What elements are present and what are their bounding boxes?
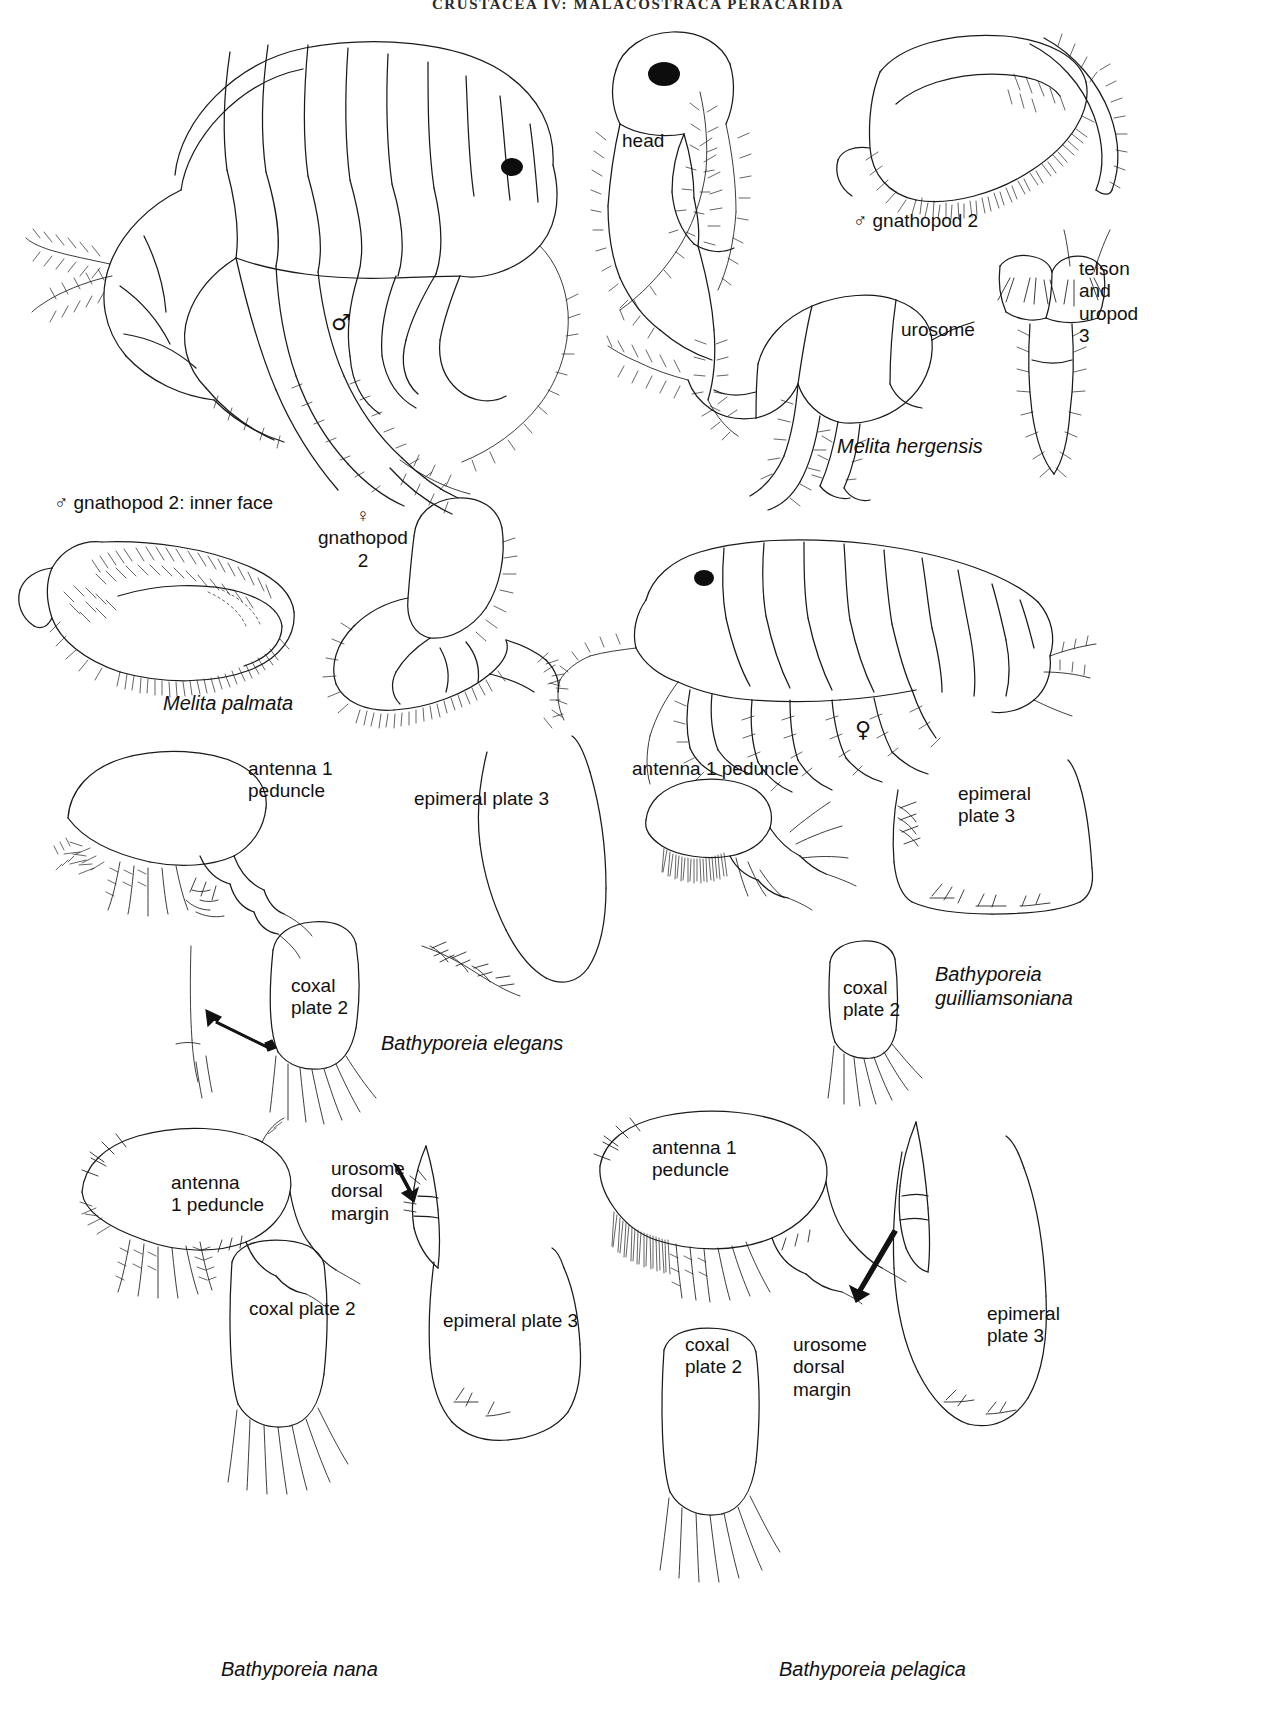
label-epimeral-plate-3-elegans: epimeral plate 3 xyxy=(414,788,549,810)
label-antenna-1-peduncle-elegans: antenna 1 peduncle xyxy=(248,758,333,803)
label-epimeral-plate-3-pelagica: epimeral plate 3 xyxy=(987,1303,1060,1348)
label-male-gnathopod-2: ♂ gnathopod 2 xyxy=(853,210,978,232)
label-antenna-1-peduncle-guilliamsoniana: antenna 1 peduncle xyxy=(632,758,799,780)
figure-pelagica-epimeral-plate-3 xyxy=(893,1136,1046,1426)
label-female-gnathopod-2: ♀ gnathopod 2 xyxy=(318,505,408,572)
plate-line-art xyxy=(0,0,1276,1709)
species-bathyporeia-elegans: Bathyporeia elegans xyxy=(381,1032,563,1056)
arrow-pelagica xyxy=(850,1230,897,1302)
figure-nana-coxal-plate-2 xyxy=(228,1240,348,1494)
label-male-gnathopod-2-inner-face: ♂ gnathopod 2: inner face xyxy=(54,492,273,514)
figure-pelagica-urosome-dorsal-margin xyxy=(850,1122,930,1302)
species-melita-palmata: Melita palmata xyxy=(163,692,293,716)
figure-melita-palmata-gnathopod-inner xyxy=(19,542,294,697)
figure-male-gnathopod-2 xyxy=(837,34,1127,219)
label-coxal-plate-2-guilliamsoniana: coxal plate 2 xyxy=(843,977,900,1022)
figure-nana-epimeral-plate-3 xyxy=(429,1248,580,1440)
illustration-plate: CRUSTACEA IV: MALACOSTRACA PERACARIDA xyxy=(0,0,1276,1709)
label-urosome-dorsal-margin-pelagica: urosome dorsal margin xyxy=(793,1334,867,1401)
label-head: head xyxy=(622,130,664,152)
male-sex-marker-habitus: ♂ xyxy=(331,310,351,335)
label-coxal-plate-2-pelagica: coxal plate 2 xyxy=(685,1334,742,1379)
label-telson-and-uropod-3: telson and uropod 3 xyxy=(1079,258,1138,348)
figure-elegans-epimeral-plate-3 xyxy=(422,736,606,996)
label-epimeral-plate-3-guilliamsoniana: epimeral plate 3 xyxy=(958,783,1031,828)
arrow-elegans xyxy=(206,1010,276,1051)
species-melita-hergensis: Melita hergensis xyxy=(837,435,983,459)
label-antenna-1-peduncle-pelagica: antenna 1 peduncle xyxy=(652,1137,737,1182)
label-urosome-dorsal-margin-nana: urosome dorsal margin xyxy=(331,1158,405,1225)
figure-melita-hergensis-head xyxy=(591,32,751,440)
figure-bathyporeia-guilliamsoniana-habitus xyxy=(550,540,1096,792)
figure-guilliamsoniana-antenna1-peduncle xyxy=(646,779,856,910)
label-coxal-plate-2-elegans: coxal plate 2 xyxy=(291,975,348,1020)
label-urosome: urosome xyxy=(901,319,975,341)
label-coxal-plate-2-nana: coxal plate 2 xyxy=(249,1298,356,1320)
figure-pelagica-antenna1-peduncle xyxy=(594,1111,906,1304)
female-sex-marker-habitus: ♀ xyxy=(855,717,871,742)
running-head: CRUSTACEA IV: MALACOSTRACA PERACARIDA xyxy=(0,0,1276,13)
label-epimeral-plate-3-nana: epimeral plate 3 xyxy=(443,1310,578,1332)
figure-melita-hergensis-male-habitus xyxy=(26,42,580,514)
species-bathyporeia-nana: Bathyporeia nana xyxy=(221,1658,378,1682)
figure-elegans-coxal-plate-2 xyxy=(176,922,376,1124)
label-antenna-1-peduncle-nana: antenna 1 peduncle xyxy=(171,1172,264,1217)
figure-guilliamsoniana-coxal-plate-2 xyxy=(828,941,922,1106)
species-bathyporeia-pelagica: Bathyporeia pelagica xyxy=(779,1658,966,1682)
species-bathyporeia-guilliamsoniana: Bathyporeia guilliamsoniana xyxy=(935,963,1073,1010)
